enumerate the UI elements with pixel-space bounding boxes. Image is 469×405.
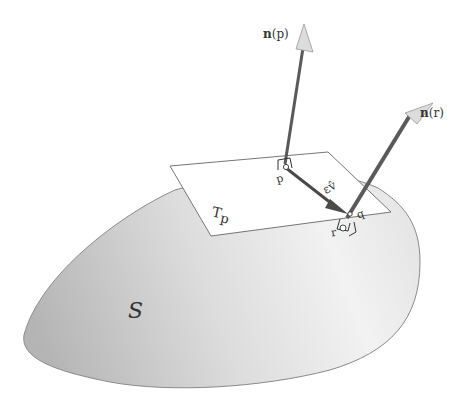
- label-normal-p: n(p): [263, 27, 289, 41]
- surface-tangent-diagram: p q r εv̂ Tp S n(p) n(r): [0, 0, 469, 405]
- arrowhead-icon: [296, 24, 313, 52]
- point-q: [348, 212, 352, 216]
- label-surface-s: S: [128, 298, 143, 323]
- point-p: [283, 164, 288, 169]
- normal-vector-p: [285, 24, 313, 164]
- label-normal-r: n(r): [420, 106, 444, 120]
- point-r: [340, 225, 346, 231]
